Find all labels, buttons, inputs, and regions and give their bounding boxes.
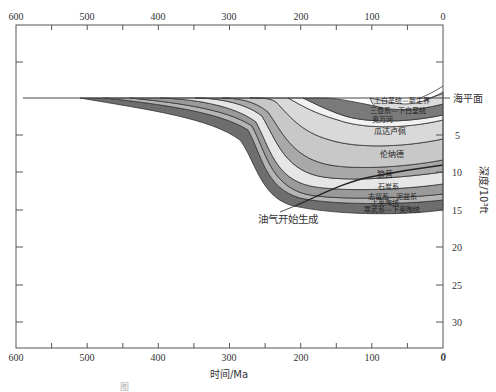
svg-text:15: 15 [452,205,462,216]
oil-generation-label: 油气开始生成 [258,213,319,225]
svg-text:100: 100 [365,352,380,363]
label-wolfcamp: 狼营 [377,169,393,179]
label-guadalupe: 瓜达卢佩 [374,126,406,136]
bottom-tick-labels: 600 500 400 300 200 100 0 [9,352,446,363]
svg-text:0: 0 [441,11,446,22]
svg-text:10: 10 [452,167,462,178]
oil-generation-leader [280,206,295,212]
label-triassic-lower-cretaceous: 三叠系—下白垩统 [370,106,426,115]
svg-text:0: 0 [441,351,446,362]
label-cambrian-lower-ordovician: 寒武系—下奥陶统 [364,205,420,214]
svg-text:400: 400 [151,352,166,363]
sea-level-label: 海平面 [453,92,483,104]
bottom-axis-ticks [52,343,408,348]
label-ochoan: 奥万河 [372,115,393,124]
svg-text:300: 300 [222,11,237,22]
svg-text:500: 500 [80,11,95,22]
top-tick-labels: 600 500 400 300 200 100 0 [9,11,446,22]
y-axis-title: 深度/10³ft [478,166,490,213]
svg-text:600: 600 [9,11,24,22]
svg-text:600: 600 [9,352,24,363]
left-axis-ticks [16,62,23,322]
figure-caption: 图 [120,382,129,392]
svg-text:20: 20 [452,242,462,253]
label-upper-cretaceous-cenozoic: 上白垩统—新生界 [374,96,430,105]
svg-text:300: 300 [222,352,237,363]
x-axis-title: 时间/Ma [210,368,248,380]
svg-text:25: 25 [452,280,462,291]
svg-text:400: 400 [151,11,166,22]
svg-text:200: 200 [294,11,309,22]
svg-text:200: 200 [294,352,309,363]
svg-text:5: 5 [455,130,460,141]
top-axis-ticks [52,25,408,30]
svg-text:30: 30 [452,317,462,328]
right-tick-labels: 5 10 15 20 25 30 0 [441,130,462,362]
label-carboniferous: 石炭系 [378,182,399,191]
burial-history-chart: 600 500 400 300 200 100 0 600 500 400 30… [0,0,496,392]
svg-text:500: 500 [80,352,95,363]
label-leonard: 伦纳德 [380,149,404,159]
svg-text:100: 100 [365,11,380,22]
